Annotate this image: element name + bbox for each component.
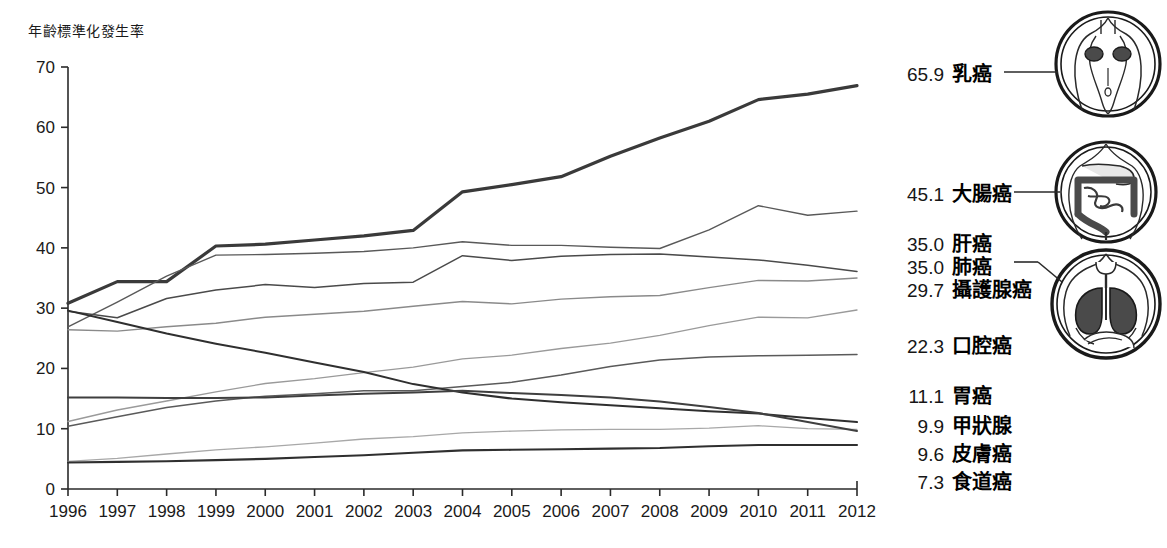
x-axis-tick-label: 2006 [542, 502, 580, 521]
x-axis-tick-label: 2003 [394, 502, 432, 521]
x-axis-tick-label: 2004 [444, 502, 482, 521]
legend-value: 9.9 [886, 416, 944, 438]
legend-label: 甲狀腺 [952, 410, 1012, 439]
legend-label: 皮膚癌 [952, 438, 1012, 467]
legend-item-breast[interactable]: 65.9 乳癌 [886, 58, 992, 87]
x-axis-tick-label: 2002 [345, 502, 383, 521]
plot-area: 0102030405060701996199719981999200020012… [0, 0, 880, 548]
y-axis-tick-label: 0 [46, 480, 55, 499]
series-line-食道癌 [68, 445, 857, 463]
x-axis-tick-label: 2012 [838, 502, 876, 521]
breast-torso-icon [1054, 10, 1162, 118]
x-axis-tick-label: 2009 [690, 502, 728, 521]
legend-value: 7.3 [886, 472, 944, 494]
x-axis-tick-label: 1996 [49, 502, 87, 521]
series-line-肝癌 [68, 254, 857, 318]
legend-item-thyroid[interactable]: 9.9 甲狀腺 [886, 410, 1012, 439]
y-axis-title: 年齡標準化發生率 [28, 20, 144, 40]
legend-label: 食道癌 [952, 466, 1012, 495]
legend-value: 22.3 [886, 336, 944, 358]
legend-label: 胃癌 [952, 380, 992, 409]
legend-value: 45.1 [886, 184, 944, 206]
legend-item-esophagus[interactable]: 7.3 食道癌 [886, 466, 1012, 495]
y-axis-tick-label: 70 [36, 58, 55, 77]
series-line-肺癌 [68, 278, 857, 331]
legend-value: 65.9 [886, 64, 944, 86]
x-axis-tick-label: 1999 [197, 502, 235, 521]
x-axis-tick-label: 2007 [592, 502, 630, 521]
legend-item-skin[interactable]: 9.6 皮膚癌 [886, 438, 1012, 467]
y-axis-tick-label: 40 [36, 239, 55, 258]
x-axis-tick-label: 2011 [789, 502, 826, 521]
legend-value: 9.6 [886, 444, 944, 466]
colon-icon [1054, 140, 1158, 244]
x-axis-tick-label: 1997 [98, 502, 136, 521]
x-axis-tick-label: 2005 [493, 502, 531, 521]
y-axis-tick-label: 50 [36, 179, 55, 198]
y-axis-tick-label: 20 [36, 359, 55, 378]
series-line-甲狀腺 [68, 426, 857, 462]
y-axis-tick-label: 30 [36, 299, 55, 318]
y-axis-tick-label: 10 [36, 420, 55, 439]
lungs-icon [1050, 248, 1162, 360]
legend-item-colorectal[interactable]: 45.1 大腸癌 [886, 178, 1012, 207]
cancer-incidence-chart: 年齡標準化發生率 0102030405060701996199719981999… [0, 0, 1167, 548]
x-axis-tick-label: 2010 [739, 502, 777, 521]
legend-item-stomach[interactable]: 11.1 胃癌 [886, 380, 992, 409]
legend-value: 11.1 [886, 386, 944, 408]
legend-label: 攝護腺癌 [952, 274, 1032, 303]
x-axis-tick-label: 1998 [148, 502, 186, 521]
legend-value: 29.7 [886, 280, 944, 302]
y-axis-tick-label: 60 [36, 118, 55, 137]
legend-item-prostate[interactable]: 29.7 攝護腺癌 [886, 274, 1032, 303]
x-axis-tick-label: 2001 [296, 502, 334, 521]
legend: 65.9 乳癌 45.1 大腸癌 35.0 肝癌 35.0 肺癌 29.7 攝護… [878, 0, 1167, 548]
series-line-乳癌 [68, 86, 857, 304]
legend-label: 大腸癌 [952, 178, 1012, 207]
legend-label: 乳癌 [952, 58, 992, 87]
legend-item-oral[interactable]: 22.3 口腔癌 [886, 330, 1012, 359]
x-axis-tick-label: 2008 [641, 502, 679, 521]
x-axis-tick-label: 2000 [246, 502, 284, 521]
legend-label: 口腔癌 [952, 330, 1012, 359]
